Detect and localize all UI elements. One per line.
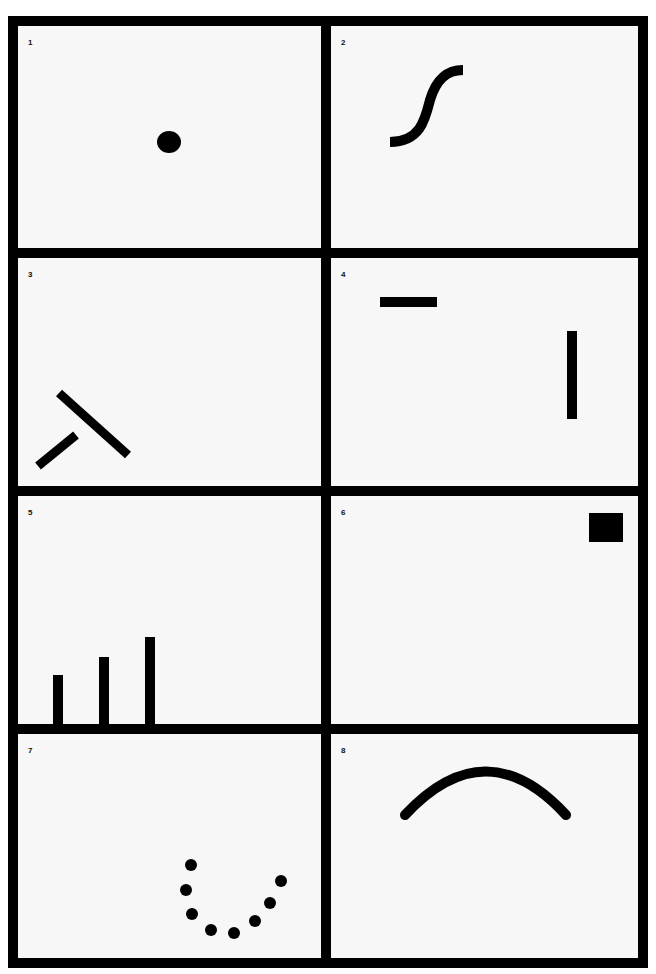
panel-3-bg xyxy=(18,258,321,486)
curve-dot xyxy=(264,897,276,909)
horizontal-divider-1 xyxy=(8,248,648,258)
curve-dot xyxy=(249,915,261,927)
panel-5-bg xyxy=(18,496,321,724)
panel-number: 5 xyxy=(28,508,33,517)
panel-7-bg xyxy=(18,734,321,958)
bar-medium xyxy=(99,657,109,726)
bar-tall xyxy=(145,637,155,726)
panel-number: 4 xyxy=(341,270,346,279)
panel-number: 7 xyxy=(28,746,33,755)
panel-number: 2 xyxy=(341,38,346,47)
panel-number: 6 xyxy=(341,508,346,517)
figure-canvas: 1 2 3 4 5 6 7 xyxy=(0,0,656,974)
dot-shape xyxy=(157,131,181,153)
panel-number: 3 xyxy=(28,270,33,279)
horizontal-bar xyxy=(380,297,437,307)
curve-dot xyxy=(275,875,287,887)
curve-dot xyxy=(186,908,198,920)
curve-dot xyxy=(228,927,240,939)
panel-number: 8 xyxy=(341,746,346,755)
curve-dot xyxy=(205,924,217,936)
panel-2-bg xyxy=(331,26,638,248)
vertical-bar xyxy=(567,331,577,419)
horizontal-divider-2 xyxy=(8,486,648,496)
horizontal-divider-3 xyxy=(8,724,648,734)
curve-dot xyxy=(185,859,197,871)
curve-dot xyxy=(180,884,192,896)
panel-number: 1 xyxy=(28,38,33,47)
panel-4-bg xyxy=(331,258,638,486)
bar-short xyxy=(53,675,63,726)
square-shape xyxy=(589,513,623,542)
